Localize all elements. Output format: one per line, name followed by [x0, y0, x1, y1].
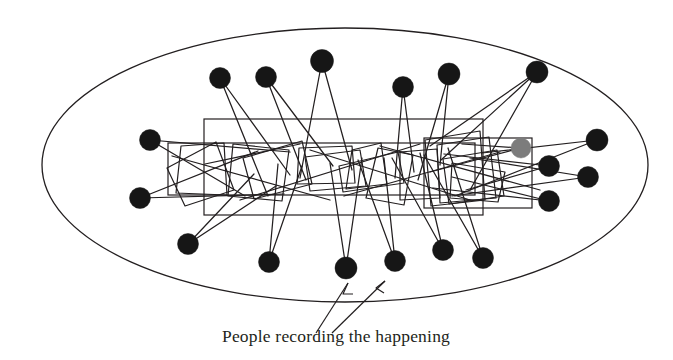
figure-caption: People recording the happening [222, 326, 450, 346]
network-diagram-figure: People recording the happening [0, 0, 673, 360]
audience-node-top-4 [393, 77, 414, 98]
audience-node-right-2 [539, 156, 560, 177]
audience-node-bottom-4 [385, 251, 406, 272]
audience-node-right-4 [539, 191, 560, 212]
audience-node-left-1 [140, 130, 161, 151]
audience-node-bottom-5 [433, 240, 454, 261]
audience-node-bottom-6 [473, 248, 494, 269]
audience-node-top-1 [210, 68, 231, 89]
audience-node-top-2 [256, 67, 277, 88]
audience-node-top-6 [526, 61, 548, 83]
audience-node-right-3 [578, 167, 599, 188]
audience-node-bottom-3 [335, 257, 357, 279]
audience-node-bottom-2 [259, 252, 280, 273]
diagram-canvas: People recording the happening [0, 0, 673, 360]
highlighted-node-gray [511, 138, 531, 158]
audience-node-top-3 [311, 50, 334, 73]
audience-node-right-1 [586, 129, 608, 151]
audience-node-left-2 [130, 188, 151, 209]
audience-node-bottom-1 [178, 234, 199, 255]
canvas-background [0, 0, 673, 360]
audience-node-top-5 [438, 63, 460, 85]
